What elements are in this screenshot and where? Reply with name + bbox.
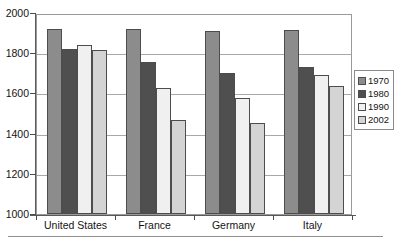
legend-swatch-icon bbox=[358, 77, 366, 85]
x-category-label: Italy bbox=[273, 219, 352, 231]
legend-item: 1970 bbox=[358, 74, 391, 87]
y-tick-label: 1400 bbox=[0, 129, 29, 139]
y-axis-tick-labels: 100012001400160018002000 bbox=[0, 0, 397, 241]
x-category-label: United States bbox=[36, 219, 115, 231]
x-category-label: France bbox=[115, 219, 194, 231]
legend-item: 1980 bbox=[358, 87, 391, 100]
legend-item-label: 1980 bbox=[368, 89, 389, 99]
legend-swatch-icon bbox=[358, 103, 366, 111]
legend-item-label: 1970 bbox=[368, 76, 389, 86]
legend-item: 2002 bbox=[358, 113, 391, 126]
y-tick-label: 2000 bbox=[0, 8, 29, 18]
x-category-label: Germany bbox=[194, 219, 273, 231]
y-tick-label: 1800 bbox=[0, 48, 29, 58]
legend-swatch-icon bbox=[358, 90, 366, 98]
legend-item: 1990 bbox=[358, 100, 391, 113]
y-tick-label: 1200 bbox=[0, 169, 29, 179]
bar-chart-figure: 100012001400160018002000 United StatesFr… bbox=[0, 0, 397, 241]
legend: 1970198019902002 bbox=[354, 70, 394, 130]
x-tick-mark bbox=[352, 215, 353, 220]
legend-swatch-icon bbox=[358, 116, 366, 124]
legend-item-label: 1990 bbox=[368, 102, 389, 112]
bottom-divider bbox=[8, 236, 383, 237]
y-tick-label: 1600 bbox=[0, 88, 29, 98]
legend-item-label: 2002 bbox=[368, 115, 389, 125]
y-tick-label: 1000 bbox=[0, 209, 29, 219]
